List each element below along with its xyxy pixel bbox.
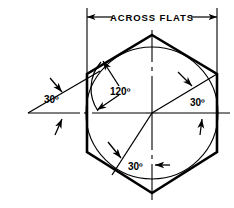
angle-30-bottom-arrow-left <box>108 142 121 158</box>
angle-label-30-left: 30º <box>44 94 59 105</box>
radial-line-upper-right <box>152 74 217 113</box>
angle-arc-120-arrow-lower <box>97 95 119 110</box>
angle-label-120: 120º <box>110 86 131 97</box>
angle-arc-120-arrow-upper <box>103 61 119 86</box>
angle-30-right-arrow-lower <box>200 119 202 135</box>
angle-30-left-arrow-upper <box>50 78 62 92</box>
across-flats-label: ACROSS FLATS <box>110 12 194 23</box>
angle-label-30-right: 30º <box>190 97 205 108</box>
angle-label-30-bottom: 30º <box>128 161 143 172</box>
technical-drawing-svg: ACROSS FLATS <box>0 0 234 208</box>
angle-30-right-arrow-upper <box>178 72 192 86</box>
hexagon-drawing-canvas: ACROSS FLATS <box>0 0 234 208</box>
angle-30-left-arrow-lower <box>55 119 62 135</box>
